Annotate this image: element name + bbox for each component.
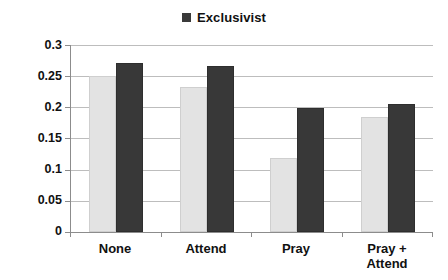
bar-pray-exclusivist	[297, 108, 324, 232]
chart-legend: Exclusivist	[0, 6, 448, 28]
y-tick-label-6: 0	[16, 225, 62, 237]
bar-pray-attend-light	[361, 117, 388, 232]
y-tick-label-3: 0.15	[16, 132, 62, 144]
x-tick-mark-3	[342, 232, 343, 237]
bar-attend-exclusivist	[207, 66, 234, 232]
bar-none-light	[89, 76, 116, 232]
y-tick-label-2: 0.2	[16, 101, 62, 113]
y-tick-label-1: 0.25	[16, 70, 62, 82]
legend-label: Exclusivist	[197, 11, 266, 24]
bar-attend-light	[180, 87, 207, 232]
legend-swatch-icon	[182, 13, 191, 22]
bar-chart: Exclusivist Proportion blaming other rel…	[0, 0, 448, 280]
x-tick-mark-0	[70, 232, 71, 237]
plot-area	[70, 45, 433, 232]
x-tick-mark-1	[161, 232, 162, 237]
bar-pray-light	[270, 158, 297, 232]
bar-pray-attend-exclusivist	[388, 104, 415, 232]
legend-entry-exclusivist: Exclusivist	[182, 11, 266, 24]
gridline-0.30	[71, 45, 433, 46]
y-tick-label-5: 0.05	[16, 194, 62, 206]
y-tick-label-4: 0.1	[16, 163, 62, 175]
x-label-pray-attend: Pray +Attend	[332, 241, 442, 271]
x-tick-mark-4	[432, 232, 433, 237]
y-tick-label-0: 0.3	[16, 39, 62, 51]
x-tick-mark-2	[251, 232, 252, 237]
bar-none-exclusivist	[116, 63, 143, 232]
x-label-pray-attend-text: Pray +Attend	[366, 241, 407, 271]
